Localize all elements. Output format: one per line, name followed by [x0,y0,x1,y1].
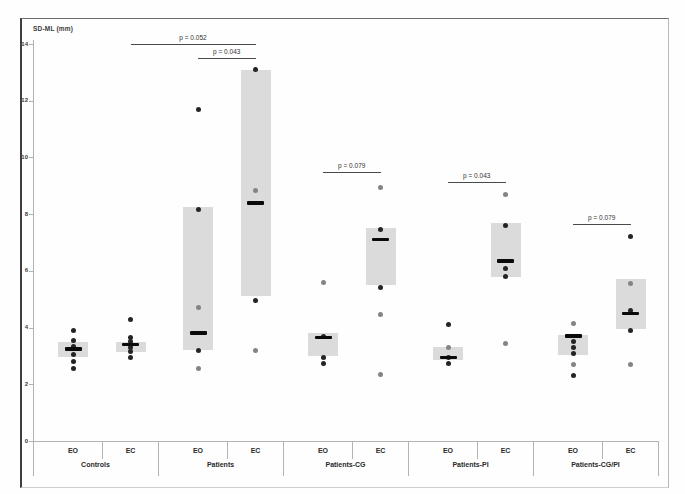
data-point [128,317,133,322]
condition-label: EC [361,447,401,454]
y-tick-label: 2 [14,381,28,387]
y-tick [29,328,33,329]
median-bar [247,201,264,205]
data-point [571,351,576,356]
p-value-line [448,182,506,183]
data-point [628,234,633,239]
data-point [321,361,326,366]
group-divider [158,441,159,476]
condition-label: EC [236,447,276,454]
condition-divider [477,441,478,459]
range-box [183,207,213,350]
data-point [128,355,133,360]
y-tick [29,214,33,215]
median-bar [622,312,639,316]
plot-area: 02468101214ControlsEOECPatientsEOECPatie… [0,0,685,494]
y-tick-label: 8 [14,211,28,217]
data-point [503,341,508,346]
data-point [196,366,201,371]
data-point [571,362,576,367]
data-point [71,359,76,364]
group-label: Patients-CG [283,461,408,468]
y-tick-label: 14 [14,41,28,47]
group-divider [408,441,409,476]
median-bar [565,334,582,338]
group-label: Patients-PI [408,461,533,468]
condition-label: EC [486,447,526,454]
p-value-label: p = 0.043 [442,172,512,179]
data-point [253,188,258,193]
p-value-label: p = 0.079 [317,162,387,169]
data-point [503,192,508,197]
condition-divider [102,441,103,459]
condition-label: EO [178,447,218,454]
group-label: Controls [33,461,158,468]
data-point [71,328,76,333]
range-box [366,228,396,285]
data-point [503,266,508,271]
y-tick [29,101,33,102]
data-point [321,280,326,285]
p-value-line [573,224,631,225]
data-point [571,339,576,344]
median-bar [440,356,457,360]
axis-table-right-edge [658,441,659,476]
condition-label: EC [611,447,651,454]
y-tick-label: 6 [14,267,28,273]
median-bar [65,347,82,351]
condition-divider [352,441,353,459]
condition-label: EO [53,447,93,454]
figure-canvas: SD-ML (mm) 02468101214ControlsEOECPatien… [0,0,685,494]
data-point [253,348,258,353]
y-tick [29,271,33,272]
data-point [71,366,76,371]
median-bar [497,259,514,263]
group-label: Patients [158,461,283,468]
condition-divider [227,441,228,459]
median-bar [190,331,207,335]
data-point [446,322,451,327]
range-box [241,70,271,297]
data-point [71,338,76,343]
p-value-line [323,172,381,173]
data-point [503,223,508,228]
median-bar [122,343,139,347]
data-point [253,298,258,303]
data-point [196,348,201,353]
range-box [616,279,646,329]
data-point [628,328,633,333]
data-point [253,67,258,72]
y-tick-label: 10 [14,154,28,160]
condition-label: EO [428,447,468,454]
data-point [571,345,576,350]
y-tick [29,157,33,158]
data-point [446,361,451,366]
condition-divider [602,441,603,459]
data-point [71,352,76,357]
p-value-line [131,44,256,45]
data-point [446,345,451,350]
condition-label: EC [111,447,151,454]
median-bar [372,238,389,242]
data-point [503,274,508,279]
p-value-line [198,58,256,59]
data-point [628,362,633,367]
group-divider [283,441,284,476]
data-point [378,185,383,190]
median-bar [315,336,332,340]
x-axis-line [33,441,658,442]
y-tick [29,441,33,442]
y-tick [29,44,33,45]
y-tick-label: 4 [14,324,28,330]
data-point [378,285,383,290]
condition-label: EO [303,447,343,454]
data-point [571,373,576,378]
data-point [321,355,326,360]
y-tick-label: 12 [14,97,28,103]
data-point [128,349,133,354]
y-tick-label: 0 [14,438,28,444]
data-point [571,321,576,326]
p-value-label: p = 0.052 [158,34,228,41]
data-point [378,312,383,317]
p-value-label: p = 0.043 [192,48,262,55]
